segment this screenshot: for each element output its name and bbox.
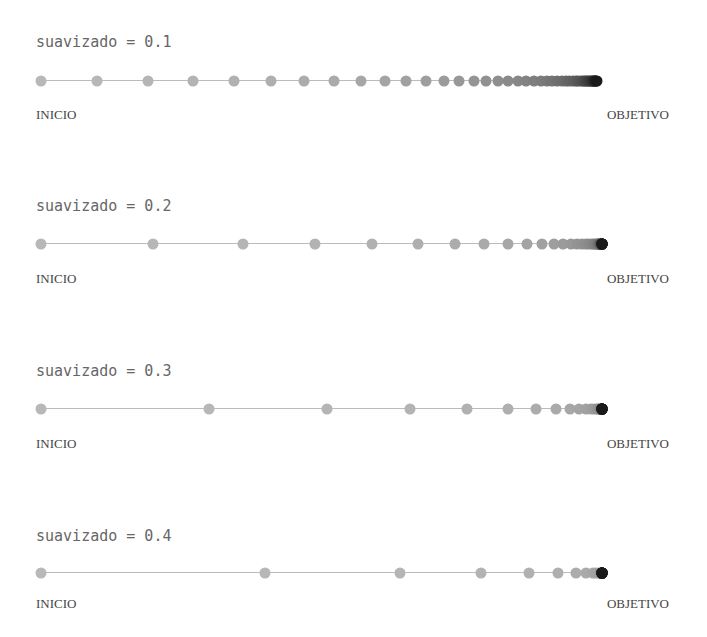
- position-dot: [379, 75, 390, 86]
- smoothing-title: suavizado = 0.1: [36, 33, 171, 51]
- position-dot: [502, 238, 513, 249]
- position-dot: [553, 567, 564, 578]
- position-dot: [36, 567, 47, 578]
- position-dot: [536, 238, 547, 249]
- position-dot: [142, 75, 153, 86]
- target-label: OBJETIVO: [607, 596, 669, 612]
- position-dot: [530, 403, 541, 414]
- position-dot: [468, 75, 479, 86]
- position-dot: [454, 75, 465, 86]
- position-dot: [438, 75, 449, 86]
- position-dot: [449, 238, 460, 249]
- position-dot: [493, 75, 504, 86]
- position-dot: [367, 238, 378, 249]
- position-dot: [322, 403, 333, 414]
- position-dot: [596, 403, 607, 414]
- target-label: OBJETIVO: [607, 436, 669, 452]
- position-dot: [524, 567, 535, 578]
- position-dot: [228, 75, 239, 86]
- start-label: INICIO: [36, 271, 76, 287]
- start-label: INICIO: [36, 107, 76, 123]
- position-dot: [570, 567, 581, 578]
- position-dot: [36, 75, 47, 86]
- position-dot: [328, 75, 339, 86]
- position-dot: [413, 238, 424, 249]
- smoothing-title: suavizado = 0.2: [36, 197, 171, 215]
- position-dot: [479, 238, 490, 249]
- path-line: [41, 572, 602, 573]
- position-dot: [475, 567, 486, 578]
- position-dot: [420, 75, 431, 86]
- position-dot: [591, 75, 602, 86]
- position-dot: [188, 75, 199, 86]
- start-label: INICIO: [36, 436, 76, 452]
- position-dot: [521, 238, 532, 249]
- position-dot: [204, 403, 215, 414]
- start-label: INICIO: [36, 596, 76, 612]
- position-dot: [596, 238, 607, 249]
- path-line: [41, 243, 602, 244]
- position-dot: [36, 403, 47, 414]
- smoothing-title: suavizado = 0.3: [36, 362, 171, 380]
- position-dot: [309, 238, 320, 249]
- target-label: OBJETIVO: [607, 107, 669, 123]
- position-dot: [502, 403, 513, 414]
- position-dot: [401, 75, 412, 86]
- target-label: OBJETIVO: [607, 271, 669, 287]
- position-dot: [404, 403, 415, 414]
- position-dot: [260, 567, 271, 578]
- position-dot: [298, 75, 309, 86]
- position-dot: [395, 567, 406, 578]
- position-dot: [355, 75, 366, 86]
- position-dot: [597, 567, 608, 578]
- position-dot: [36, 238, 47, 249]
- position-dot: [92, 75, 103, 86]
- smoothing-title: suavizado = 0.4: [36, 527, 171, 545]
- position-dot: [550, 403, 561, 414]
- position-dot: [481, 75, 492, 86]
- position-dot: [462, 403, 473, 414]
- position-dot: [237, 238, 248, 249]
- position-dot: [148, 238, 159, 249]
- position-dot: [265, 75, 276, 86]
